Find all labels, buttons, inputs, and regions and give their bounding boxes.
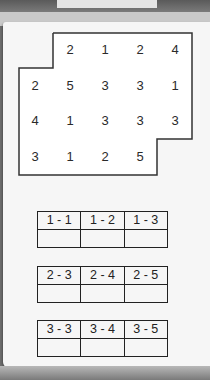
table-header-cell: 3 - 3 — [38, 321, 81, 339]
grid-cell: 5 — [130, 150, 150, 164]
answer-cell[interactable] — [81, 285, 124, 303]
answer-table-3: 3 - 3 3 - 4 3 - 5 — [37, 320, 168, 357]
grid-cell: 4 — [165, 43, 185, 57]
grid-cell: 2 — [130, 43, 150, 57]
table-header-cell: 2 - 5 — [124, 267, 167, 285]
answer-cell[interactable] — [124, 230, 167, 248]
answer-cell[interactable] — [124, 285, 167, 303]
grid-cell: 1 — [95, 43, 115, 57]
bottom-frame — [0, 366, 210, 380]
answer-cell[interactable] — [81, 230, 124, 248]
grid-cell: 2 — [25, 79, 45, 93]
grid-cell: 3 — [95, 114, 115, 128]
answer-cell[interactable] — [81, 339, 124, 357]
answer-cell[interactable] — [38, 285, 81, 303]
answer-cell[interactable] — [38, 339, 81, 357]
grid-cell: 3 — [165, 114, 185, 128]
table-header-cell: 3 - 4 — [81, 321, 124, 339]
answer-cell[interactable] — [38, 230, 81, 248]
grid-cell: 1 — [60, 114, 80, 128]
answer-cell[interactable] — [124, 339, 167, 357]
table-header-cell: 2 - 4 — [81, 267, 124, 285]
grid-cell: 3 — [130, 79, 150, 93]
answer-table-1: 1 - 1 1 - 2 1 - 3 — [37, 211, 168, 248]
table-header-cell: 1 - 3 — [124, 212, 167, 230]
grid-cell: 2 — [60, 43, 80, 57]
answer-table-2: 2 - 3 2 - 4 2 - 5 — [37, 266, 168, 303]
grid-cell: 3 — [130, 114, 150, 128]
table-header-cell: 1 - 1 — [38, 212, 81, 230]
grid-cell: 3 — [25, 150, 45, 164]
grid-cell: 2 — [95, 150, 115, 164]
grid-cell: 4 — [25, 114, 45, 128]
grid-cell: 1 — [60, 150, 80, 164]
table-header-cell: 3 - 5 — [124, 321, 167, 339]
table-header-cell: 2 - 3 — [38, 267, 81, 285]
table-header-cell: 1 - 2 — [81, 212, 124, 230]
grid-cell: 1 — [165, 79, 185, 93]
grid-cell: 3 — [95, 79, 115, 93]
grid-cell: 5 — [60, 79, 80, 93]
